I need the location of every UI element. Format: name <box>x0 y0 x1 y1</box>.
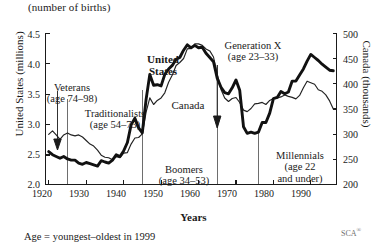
annotation-veterans-title: Veterans <box>54 82 90 93</box>
y-left-tick-3.0: 3.0 <box>14 119 40 130</box>
axis-left-ticks <box>46 34 50 185</box>
x-tick-1930: 1930 <box>59 188 99 199</box>
x-tick-1950: 1950 <box>133 188 173 199</box>
generation-x-arrow <box>214 65 221 128</box>
source-credit-mark: ® <box>357 227 362 233</box>
annotation-generation-x-title: Generation X <box>225 40 282 51</box>
annotation-boomers-title: Boomers <box>165 164 203 175</box>
series-label-us-line2: States <box>149 65 177 77</box>
x-axis-title: Years <box>0 211 387 223</box>
annotation-generation-x: Generation X (age 23–33) <box>207 40 299 63</box>
y-left-tick-4.5: 4.5 <box>14 29 40 40</box>
x-tick-1990: 1990 <box>281 188 321 199</box>
y-right-tick-350: 350 <box>343 104 369 115</box>
x-tick-1940: 1940 <box>96 188 136 199</box>
annotation-millennials: Millennials (age 22 and under) <box>262 150 338 184</box>
series-label-canada: Canada <box>160 100 216 112</box>
annotation-generation-x-age: (age 23–33) <box>228 51 278 62</box>
series-label-us-line1: United <box>147 53 179 65</box>
source-credit-text: SCA <box>341 229 357 238</box>
y-left-tick-4.0: 4.0 <box>14 59 40 70</box>
annotation-millennials-age2: and under) <box>277 173 322 184</box>
y-right-tick-300: 300 <box>343 129 369 140</box>
source-credit: SCA® <box>341 227 361 238</box>
annotation-traditionalists-title: Traditionalists <box>85 108 145 119</box>
annotation-boomers: Boomers (age 34–53) <box>142 164 226 187</box>
annotation-traditionalists: Traditionalists (age 54–73) <box>66 108 164 131</box>
chart-caption: (number of births) <box>28 1 110 13</box>
series-label-united-states: United States <box>132 54 194 77</box>
y-right-tick-250: 250 <box>343 154 369 165</box>
chart-figure: (number of births) United States (millio… <box>0 0 387 248</box>
y-right-tick-500: 500 <box>343 29 369 40</box>
figure-footnote: Age = youngest–oldest in 1999 <box>24 231 155 242</box>
annotation-millennials-title: Millennials <box>276 150 324 161</box>
y-right-tick-200: 200 <box>343 179 369 190</box>
annotation-veterans: Veterans (age 74–98) <box>36 82 108 105</box>
x-tick-1960: 1960 <box>170 188 210 199</box>
annotation-traditionalists-age: (age 54–73) <box>90 119 140 130</box>
y-right-tick-450: 450 <box>343 54 369 65</box>
y-right-tick-400: 400 <box>343 79 369 90</box>
x-tick-1970: 1970 <box>207 188 247 199</box>
annotation-boomers-age: (age 34–53) <box>159 175 209 186</box>
y-left-tick-2.5: 2.5 <box>14 149 40 160</box>
annotation-millennials-age1: (age 22 <box>284 161 315 172</box>
x-tick-1980: 1980 <box>244 188 284 199</box>
annotation-veterans-age: (age 74–98) <box>47 93 97 104</box>
x-tick-1920: 1920 <box>22 188 62 199</box>
